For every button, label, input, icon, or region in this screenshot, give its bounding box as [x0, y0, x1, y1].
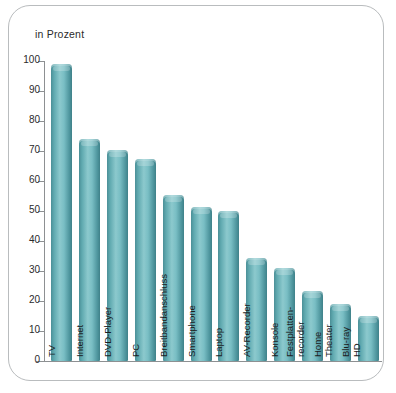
bar-slot: Internet	[76, 61, 104, 361]
bar[interactable]: Internet	[79, 139, 100, 361]
bar-category-label: HomeTheater	[312, 324, 334, 357]
bar-category-label: Laptop	[213, 328, 224, 357]
y-tick-label: 40	[29, 234, 40, 245]
bar-slot: Festplatten-recorder	[299, 61, 327, 361]
bar[interactable]: PC	[135, 159, 156, 362]
y-tick-label: 30	[29, 264, 40, 275]
bar-slot: Smartphone	[187, 61, 215, 361]
bar-series: TVInternetDVD-PlayerPCBreitbandanschluss…	[48, 61, 382, 361]
bar[interactable]: Blu-rayHD	[358, 316, 379, 361]
y-tick-label: 10	[29, 324, 40, 335]
bar-slot: Breitbandanschluss	[159, 61, 187, 361]
bar-slot: DVD-Player	[104, 61, 132, 361]
bar-category-label: TV	[46, 345, 57, 357]
y-axis-line	[44, 61, 45, 362]
bar-category-label: Festplatten-recorder	[284, 307, 306, 357]
bar-category-label: Breitbandanschluss	[158, 274, 169, 357]
bar-slot: PC	[132, 61, 160, 361]
x-axis-line	[36, 361, 382, 362]
bar-slot: TV	[48, 61, 76, 361]
bar-slot: Laptop	[215, 61, 243, 361]
y-tick-label: 70	[29, 144, 40, 155]
bar-category-label: AV-Recorder	[241, 303, 252, 357]
bar-slot: Blu-rayHD	[354, 61, 382, 361]
bar-category-label: PC	[130, 344, 141, 357]
bar-category-label: Konsole	[269, 323, 280, 357]
bar-category-label: DVD-Player	[102, 307, 113, 357]
y-tick-label: 50	[29, 204, 40, 215]
bar-category-label: Smartphone	[186, 305, 197, 357]
bar-category-label: Blu-rayHD	[340, 327, 362, 357]
y-tick-label: 100	[23, 54, 40, 65]
y-tick-label: 90	[29, 84, 40, 95]
y-tick-label: 60	[29, 174, 40, 185]
bar[interactable]: TV	[51, 64, 72, 361]
y-tick-label: 0	[34, 354, 40, 365]
bar[interactable]: AV-Recorder	[246, 258, 267, 362]
bar[interactable]: Breitbandanschluss	[163, 195, 184, 362]
bar[interactable]: Smartphone	[191, 207, 212, 362]
bar[interactable]: Laptop	[218, 211, 239, 361]
y-tick-label: 80	[29, 114, 40, 125]
bar[interactable]: DVD-Player	[107, 150, 128, 362]
plot-area: 0102030405060708090100 TVInternetDVD-Pla…	[44, 61, 382, 361]
axis-unit-label: in Prozent	[35, 28, 84, 40]
chart-card: in Prozent 0102030405060708090100 TVInte…	[8, 5, 384, 381]
bar-category-label: Internet	[74, 325, 85, 357]
y-tick-label: 20	[29, 294, 40, 305]
bar-slot: AV-Recorder	[243, 61, 271, 361]
bar-slot: HomeTheater	[326, 61, 354, 361]
